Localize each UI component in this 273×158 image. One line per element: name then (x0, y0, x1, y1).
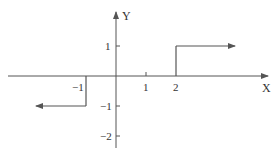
x-tick-label-neg1: −1 (72, 81, 84, 93)
x-tick-label-1: 1 (143, 81, 149, 93)
y-axis-label: Y (122, 9, 131, 23)
y-tick-label-1: 1 (105, 40, 111, 52)
y-tick-label-neg2: −2 (100, 130, 112, 142)
step-function-chart: X Y −1 1 2 1 −1 −2 (0, 0, 273, 158)
x-tick-label-2: 2 (173, 81, 179, 93)
x-axis-label: X (262, 81, 271, 95)
y-tick-label-neg1: −1 (100, 100, 112, 112)
